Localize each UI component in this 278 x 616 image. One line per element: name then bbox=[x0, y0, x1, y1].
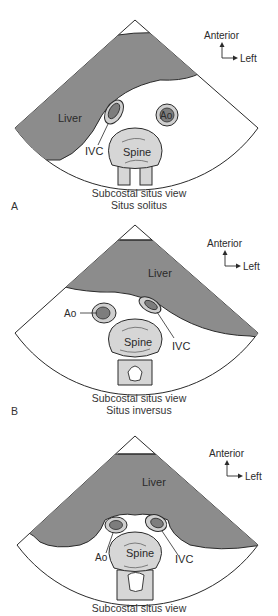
spine-label-b: Spine bbox=[124, 336, 152, 348]
ivc-label-a: IVC bbox=[85, 145, 103, 157]
caption-a-line2: Situs solitus bbox=[0, 199, 278, 211]
left-label-c: Left bbox=[245, 471, 262, 482]
orientation-indicator-c: Anterior Left bbox=[209, 448, 262, 482]
arrow-up-icon bbox=[225, 460, 230, 465]
left-label-a: Left bbox=[240, 53, 257, 64]
orientation-indicator-b: Anterior Left bbox=[207, 238, 260, 272]
arrow-right-icon bbox=[233, 56, 238, 61]
panel-a: Liver Ao IVC Spine Anterior Left bbox=[0, 0, 258, 190]
ivc-label-c: IVC bbox=[175, 553, 193, 565]
caption-b-line1: Subcostal situs view bbox=[0, 392, 278, 404]
caption-c-line1: Subcostal situs view bbox=[0, 602, 278, 614]
anterior-label-c: Anterior bbox=[209, 448, 245, 459]
ivc-label-b: IVC bbox=[172, 340, 190, 352]
liver-label-c: Liver bbox=[142, 476, 166, 488]
caption-b-line2: Situs inversus bbox=[0, 404, 278, 416]
panel-c: Liver Ao IVC Spine Anterior Left bbox=[0, 436, 278, 606]
left-label-b: Left bbox=[243, 261, 260, 272]
anterior-label-a: Anterior bbox=[204, 30, 240, 41]
liver-label-a: Liver bbox=[58, 112, 82, 124]
spine-label-c: Spine bbox=[126, 547, 154, 559]
diagram-canvas: Liver Ao IVC Spine Anterior Left bbox=[0, 0, 278, 616]
arrow-right-icon bbox=[236, 264, 241, 269]
spine-label-a: Spine bbox=[123, 146, 151, 158]
caption-a-line1: Subcostal situs view bbox=[0, 187, 278, 199]
panel-letter-a: A bbox=[11, 200, 18, 212]
ao-label-c: Ao bbox=[95, 552, 108, 563]
panel-b: Liver Ao IVC Spine Anterior Left bbox=[0, 225, 278, 395]
arrow-up-icon bbox=[223, 250, 228, 255]
arrow-up-icon bbox=[220, 42, 225, 47]
orientation-indicator-a: Anterior Left bbox=[204, 30, 257, 64]
arrow-right-icon bbox=[238, 474, 243, 479]
liver-label-b: Liver bbox=[148, 267, 172, 279]
ao-label-b: Ao bbox=[64, 308, 77, 319]
panel-letter-b: B bbox=[11, 405, 18, 417]
ao-label-a: Ao bbox=[160, 110, 173, 121]
anterior-label-b: Anterior bbox=[207, 238, 243, 249]
